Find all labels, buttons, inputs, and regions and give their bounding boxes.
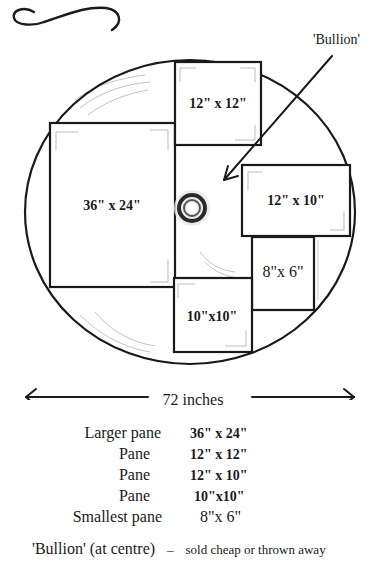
- pane-legend: Larger pane 36" x 24" Pane 12" x 12" Pan…: [0, 424, 386, 529]
- legend-row: Smallest pane 8"x 6": [0, 508, 386, 529]
- legend-size: 12" x 10": [190, 468, 248, 484]
- pane-label-36x24: 36" x 24": [83, 198, 141, 214]
- legend-size: 12" x 12": [190, 447, 248, 463]
- legend-name: Pane: [119, 445, 150, 463]
- scale-label-text: 72 inches: [157, 391, 230, 408]
- bullion-note: 'Bullion' (at centre) – sold cheap or th…: [32, 540, 326, 558]
- pane-label-12x10: 12" x 10": [267, 193, 325, 209]
- legend-size: 36" x 24": [190, 426, 248, 442]
- legend-name: Smallest pane: [73, 508, 162, 526]
- pane-label-10x10: 10"x10": [187, 309, 238, 325]
- crown-glass-diagram: [0, 0, 386, 400]
- bullion-note-name: 'Bullion' (at centre): [32, 540, 155, 557]
- legend-size: 8"x 6": [200, 508, 241, 526]
- legend-name: Pane: [119, 466, 150, 484]
- bullion-note-separator: –: [167, 542, 174, 557]
- legend-row: Pane 10"x10": [0, 487, 386, 508]
- flourish-ornament: [14, 8, 119, 30]
- bullion-note-text: sold cheap or thrown away: [186, 542, 326, 557]
- bullion-icon: [174, 190, 210, 226]
- scale-label: 72 inches: [0, 391, 386, 409]
- pane-label-12x12: 12" x 12": [189, 96, 247, 112]
- legend-size: 10"x10": [194, 489, 245, 505]
- legend-row: Pane 12" x 12": [0, 445, 386, 466]
- bullion-callout-label: 'Bullion': [313, 32, 360, 48]
- legend-row: Pane 12" x 10": [0, 466, 386, 487]
- pane-label-8x6: 8"x 6": [262, 263, 303, 281]
- legend-name: Pane: [119, 487, 150, 505]
- legend-row: Larger pane 36" x 24": [0, 424, 386, 445]
- legend-name: Larger pane: [84, 424, 161, 442]
